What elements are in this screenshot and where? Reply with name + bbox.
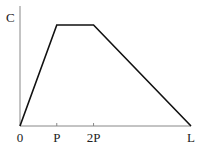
x-tick-label: 0 <box>17 130 24 145</box>
x-tick-label: 2P <box>87 130 101 145</box>
diagram: C 0P2PL <box>0 0 202 147</box>
x-tick-label: P <box>53 130 60 145</box>
series-line-c <box>20 25 191 126</box>
x-tick-label: L <box>187 130 195 145</box>
y-axis-label: C <box>6 10 15 25</box>
